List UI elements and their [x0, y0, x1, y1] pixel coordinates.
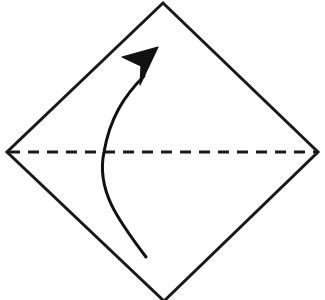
origami-diagram-container — [0, 0, 325, 300]
origami-diagram-canvas — [0, 0, 325, 300]
